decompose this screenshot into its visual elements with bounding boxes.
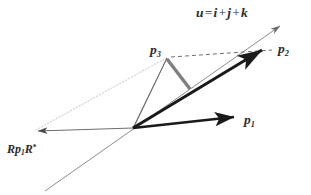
p3-label: p3 (150, 43, 161, 59)
rotation-suffix: R (25, 142, 33, 156)
diagram-canvas (0, 0, 311, 195)
term-k: k (241, 5, 248, 20)
rotation-prefix: R (7, 142, 15, 156)
equals-sign: = (204, 5, 214, 20)
term-i: i (214, 5, 218, 20)
conjugate-star: * (33, 143, 37, 152)
p2-subscript: 2 (285, 49, 289, 58)
plus-sign-2: + (231, 5, 241, 20)
vector-diagram-figure: u=i+j+k p2 p3 p1 Rp1R* (0, 0, 311, 195)
u-axis-label: u=i+j+k (196, 6, 248, 20)
rotated-vector-label: Rp1R* (7, 143, 36, 157)
p2-label: p2 (278, 42, 289, 58)
segment-p3-perpendicular-to-p2 (167, 59, 190, 89)
p1-symbol: p (244, 112, 251, 127)
p3-subscript: 3 (157, 50, 161, 59)
p1-label: p1 (244, 113, 255, 129)
p3-symbol: p (150, 42, 157, 57)
plus-sign-1: + (218, 5, 228, 20)
u-symbol: u (196, 5, 204, 20)
p2-symbol: p (278, 41, 285, 56)
vector-rotated-p1-line (38, 128, 133, 131)
p1-subscript: 1 (251, 120, 255, 129)
